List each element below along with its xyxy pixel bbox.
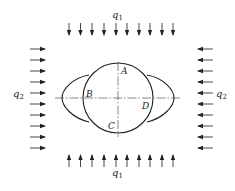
- q1-bottom-label: q1: [112, 167, 123, 180]
- point-b-label: B: [85, 89, 93, 99]
- left-lens: [62, 75, 89, 122]
- bottom-load-arrows: [69, 155, 173, 167]
- stress-diagram: q1 q1 q2 q2 A B C D: [0, 0, 235, 191]
- right-lens: [147, 75, 174, 122]
- top-load-arrows: [69, 23, 173, 35]
- center-axes: [55, 62, 182, 137]
- point-a-label: A: [120, 66, 128, 76]
- point-d-label: D: [141, 101, 149, 111]
- q1-top-label: q1: [112, 9, 123, 22]
- left-load-arrows: [30, 49, 45, 148]
- point-c-label: C: [108, 121, 115, 131]
- right-load-arrows: [198, 49, 213, 148]
- q2-right-label: q2: [216, 88, 227, 101]
- q2-left-label: q2: [13, 88, 24, 101]
